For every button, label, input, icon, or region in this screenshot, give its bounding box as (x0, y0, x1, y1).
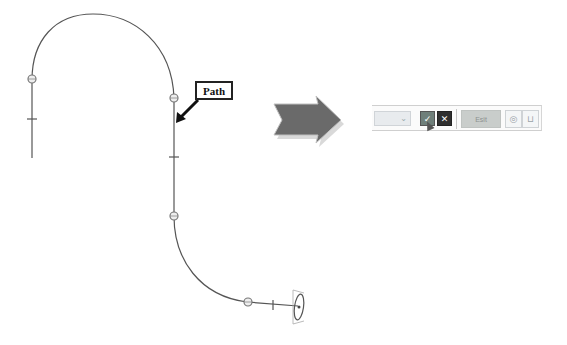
view-button[interactable]: ◎ (505, 110, 522, 128)
end-profile-ellipse (293, 290, 306, 324)
chevron-down-icon: ⌄ (400, 114, 407, 123)
view-icon: ◎ (510, 114, 518, 124)
callout-text: Path (203, 85, 225, 97)
path-callout-label: Path (195, 81, 233, 100)
path-node (28, 75, 36, 83)
callout-arrow (176, 100, 198, 123)
path-node (170, 212, 178, 220)
cancel-button[interactable]: ✕ (437, 111, 452, 126)
frame-icon: ⊔ (527, 114, 534, 124)
option-dropdown[interactable]: ⌄ (374, 111, 411, 126)
toolbar-separator (456, 109, 457, 129)
edit-button-label: Esit (475, 116, 487, 123)
edit-button[interactable]: Esit (461, 110, 501, 128)
path-top-arc (32, 14, 174, 98)
path-node (170, 94, 178, 102)
right-arrow-icon (274, 96, 344, 147)
frame-button[interactable]: ⊔ (522, 110, 539, 128)
path-node (244, 298, 252, 306)
selection-toolbar: ⌄ ✓ ✕ Esit ◎ ⊔ (372, 105, 542, 131)
close-icon: ✕ (441, 114, 449, 124)
diagram-canvas (0, 0, 567, 345)
path-lower-arc (174, 216, 247, 302)
